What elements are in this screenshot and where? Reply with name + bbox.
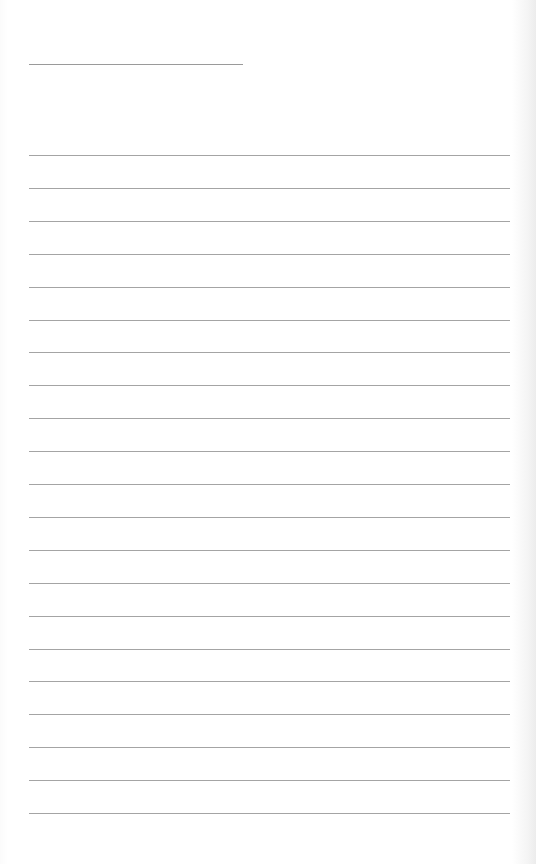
ruled-line [29, 681, 510, 682]
lined-paper-page [0, 0, 536, 864]
ruled-line [29, 320, 510, 321]
ruled-line [29, 418, 510, 419]
ruled-line [29, 254, 510, 255]
ruled-line [29, 484, 510, 485]
ruled-line [29, 451, 510, 452]
ruled-line [29, 813, 510, 814]
ruled-line [29, 385, 510, 386]
ruled-line [29, 155, 510, 156]
ruled-line [29, 583, 510, 584]
ruled-line [29, 780, 510, 781]
ruled-line [29, 747, 510, 748]
ruled-line [29, 517, 510, 518]
ruled-line [29, 188, 510, 189]
ruled-lines [0, 0, 536, 864]
ruled-line [29, 550, 510, 551]
ruled-line [29, 714, 510, 715]
ruled-line [29, 616, 510, 617]
ruled-line [29, 221, 510, 222]
ruled-line [29, 649, 510, 650]
ruled-line [29, 352, 510, 353]
ruled-line [29, 287, 510, 288]
